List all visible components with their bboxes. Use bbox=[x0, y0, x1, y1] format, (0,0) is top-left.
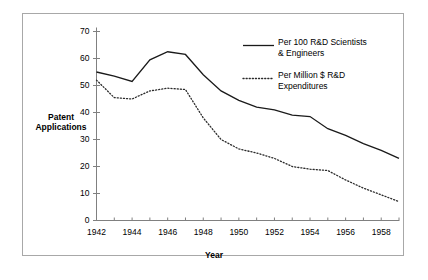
x-tick-label: 1942 bbox=[77, 227, 117, 237]
y-tick-label: 30 bbox=[57, 134, 90, 144]
y-axis-title-line1: Patent bbox=[30, 112, 92, 122]
x-tick-label: 1958 bbox=[361, 227, 401, 237]
series-line-dotted bbox=[97, 80, 400, 202]
legend-entry-0-line2: & Engineers bbox=[278, 48, 367, 59]
x-tick-label: 1954 bbox=[290, 227, 330, 237]
chart-figure: 010203040506070 194219441946194819501952… bbox=[0, 0, 428, 280]
x-tick-label: 1950 bbox=[219, 227, 259, 237]
y-tick-label: 10 bbox=[57, 188, 90, 198]
x-tick-label: 1952 bbox=[254, 227, 294, 237]
legend-entry-0: Per 100 R&D Scientists & Engineers bbox=[278, 37, 367, 58]
x-tick-label: 1944 bbox=[112, 227, 152, 237]
x-tick-label: 1956 bbox=[326, 227, 366, 237]
y-tick-label: 70 bbox=[57, 26, 90, 36]
x-axis-title: Year bbox=[0, 250, 428, 260]
x-tick-label: 1946 bbox=[148, 227, 188, 237]
legend-entry-1: Per Million $ R&D Expenditures bbox=[278, 70, 345, 91]
legend-entry-0-line1: Per 100 R&D Scientists bbox=[278, 37, 367, 48]
series-line-solid bbox=[97, 52, 400, 159]
y-tick-label: 20 bbox=[57, 161, 90, 171]
legend-entry-1-line2: Expenditures bbox=[278, 81, 345, 92]
x-tick-label: 1948 bbox=[183, 227, 223, 237]
y-axis-title: Patent Applications bbox=[30, 112, 92, 132]
y-tick-label: 0 bbox=[57, 215, 90, 225]
legend-entry-1-line1: Per Million $ R&D bbox=[278, 70, 345, 81]
y-tick-label: 50 bbox=[57, 80, 90, 90]
y-tick-label: 60 bbox=[57, 53, 90, 63]
y-axis-title-line2: Applications bbox=[30, 122, 92, 132]
